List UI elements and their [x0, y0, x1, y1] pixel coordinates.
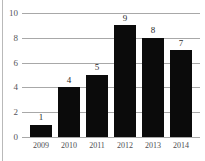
xtick-label-2012: 2012 [117, 142, 133, 150]
ytick-label-8: 8 [14, 33, 19, 42]
bar-chart: 10 8 6 4 2 0 1 4 5 9 8 7 2009 2 [0, 0, 205, 161]
bar-2014[interactable] [170, 50, 192, 137]
chart-left-border [2, 0, 3, 161]
bar-value-2009: 1 [39, 113, 44, 122]
plot-area: 10 8 6 4 2 0 1 4 5 9 8 7 [22, 13, 200, 137]
xtick-label-2010: 2010 [61, 142, 77, 150]
gridline-8: 8 [22, 38, 200, 39]
gridline-10: 10 [22, 13, 200, 14]
bar-value-2011: 5 [95, 63, 100, 72]
axis-baseline-0: 0 [22, 137, 200, 138]
bar-2009[interactable] [30, 125, 52, 137]
bar-value-2013: 8 [151, 26, 156, 35]
bar-2010[interactable] [58, 87, 80, 137]
bar-value-2012: 9 [123, 14, 128, 23]
bar-2011[interactable] [86, 75, 108, 137]
ytick-label-6: 6 [14, 58, 19, 67]
xtick-label-2009: 2009 [33, 142, 49, 150]
xtick-label-2013: 2013 [145, 142, 161, 150]
xtick-label-2014: 2014 [173, 142, 189, 150]
bar-value-2010: 4 [67, 76, 72, 85]
xtick-label-2011: 2011 [89, 142, 105, 150]
ytick-label-2: 2 [14, 108, 19, 117]
bar-2013[interactable] [142, 38, 164, 137]
bar-value-2014: 7 [179, 39, 184, 48]
bar-2012[interactable] [114, 25, 136, 137]
ytick-label-10: 10 [9, 9, 18, 18]
ytick-label-0: 0 [14, 133, 19, 142]
ytick-label-4: 4 [14, 83, 19, 92]
